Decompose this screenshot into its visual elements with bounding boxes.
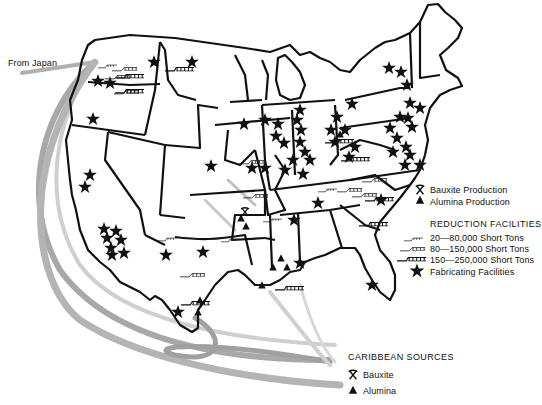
from-japan-label: From Japan: [8, 58, 57, 68]
legend-reduction-small-label: 20—80,000 Short Tons: [430, 233, 524, 243]
fabricating-facility-star: [286, 153, 300, 166]
border-ia-mn: [230, 100, 262, 102]
reduction-facility-small: [98, 65, 117, 68]
caribbean-alumina-icon: [349, 386, 357, 394]
fabricating-facility-star: [204, 159, 218, 172]
fabricating-facility-star: [383, 121, 397, 134]
alumina-plant-icon: [277, 254, 285, 261]
legend-symbols: [349, 185, 426, 393]
fabricating-facility-star: [105, 248, 119, 261]
fabricating-facility-star: [405, 120, 419, 133]
fabricating-facility-star: [97, 222, 111, 235]
medium-reduction-legend-icon: [400, 248, 425, 251]
border-wi-mn: [235, 55, 248, 100]
reduction-facility-large: [181, 302, 210, 305]
reduction-facility-medium: [180, 274, 205, 277]
fabricating-facility-star: [117, 246, 131, 259]
michigan-lower: [276, 55, 305, 100]
route-inland-arkansas-2: [205, 200, 235, 230]
fabricating-facility-star: [277, 136, 291, 149]
border-midwest-1: [225, 130, 255, 165]
alumina-plant-icon: [283, 263, 291, 270]
border-new-england: [410, 22, 440, 88]
alumina-plant-icon: [269, 263, 277, 270]
legend-alumina-label: Alumina Production: [430, 197, 510, 207]
fabricating-legend-icon: [410, 263, 425, 277]
legend-reduction-medium-label: 80—150,000 Short Tons: [430, 244, 529, 254]
large-reduction-legend-icon: [397, 258, 426, 261]
fabricating-facility-star: [382, 61, 396, 74]
reduction-facility-medium: [337, 189, 362, 192]
fabricating-facility-star: [83, 168, 97, 181]
reduction-facility-large: [341, 158, 370, 161]
caribbean-bauxite-label: Bauxite: [363, 370, 394, 380]
reduction-facility-small: [263, 219, 282, 222]
route-japan-west-inner: [56, 62, 335, 345]
reduction-facility-small: [158, 238, 177, 241]
border-la-ms: [265, 215, 275, 268]
fabricating-facility-star: [311, 196, 325, 209]
legend-reduction-large-label: 150—250,000 Short Tons: [430, 255, 534, 265]
fabricating-facility-star: [78, 180, 92, 193]
border-id-east: [145, 42, 160, 135]
border-tn-ky: [270, 170, 420, 190]
fabricating-facility-star: [296, 167, 310, 180]
bauxite-legend-icon: [416, 185, 425, 194]
border-al-ga: [298, 210, 342, 262]
reduction-facility-medium: [352, 194, 377, 197]
caribbean-bauxite-icon: [349, 370, 358, 379]
border-nv-ca: [105, 132, 145, 235]
reduction-facility-small: [318, 189, 337, 192]
fabricating-facility-star: [114, 233, 128, 246]
border-ut-co: [165, 105, 218, 148]
fabricating-facility-star: [269, 129, 283, 142]
fabricating-facility-star: [293, 103, 307, 116]
fabricating-facility-star: [294, 123, 308, 136]
fabricating-facility-star: [348, 140, 362, 153]
fabricating-facility-star: [86, 112, 100, 125]
reduction-facility-medium: [112, 68, 137, 71]
border-nc: [350, 175, 410, 190]
production-plants: [194, 130, 344, 315]
fabricating-facility-star: [390, 131, 404, 144]
reduction-facility-large: [165, 68, 194, 71]
caribbean-alumina-label: Alumina: [363, 386, 396, 396]
alumina-legend-icon: [416, 196, 424, 204]
alumina-plant-icon: [242, 222, 250, 229]
border-ny-pa: [345, 88, 410, 100]
fabricating-facility-star: [413, 101, 427, 114]
reduction-facility-large: [115, 90, 144, 93]
small-reduction-legend-icon: [404, 238, 423, 241]
alumina-plant-icon: [194, 308, 202, 315]
border-ks-ok: [190, 190, 265, 195]
border-nv-ut: [108, 132, 165, 215]
fabricating-facility-star: [196, 245, 210, 258]
fabricating-facility-star: [159, 248, 173, 261]
legend-reduction-title: REDUCTION FACILITIES: [430, 219, 542, 229]
fabricating-facility-star: [185, 55, 199, 68]
border-mi-oh: [262, 100, 335, 105]
legend-fabricating-label: Fabricating Facilities: [430, 267, 514, 277]
legend-bauxite-label: Bauxite Production: [430, 185, 507, 195]
fabricating-facility-star: [398, 158, 412, 171]
caribbean-title: CARIBBEAN SOURCES: [348, 352, 454, 362]
fabricating-facility-star: [91, 74, 105, 87]
fabricating-facility-star: [394, 65, 408, 78]
border-mo: [255, 150, 285, 215]
lake-michigan-shore: [262, 60, 268, 100]
